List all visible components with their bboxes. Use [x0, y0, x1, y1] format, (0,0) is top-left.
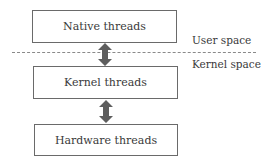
- user-space-label: User space: [192, 34, 251, 46]
- native-threads-label: Native threads: [63, 20, 146, 33]
- kernel-threads-label: Kernel threads: [64, 76, 147, 89]
- native-threads-box: Native threads: [32, 10, 177, 43]
- hardware-threads-label: Hardware threads: [55, 134, 157, 147]
- bidirectional-arrow-icon: [98, 100, 114, 123]
- kernel-threads-box: Kernel threads: [33, 66, 178, 99]
- hardware-threads-box: Hardware threads: [34, 124, 178, 156]
- kernel-space-label: Kernel space: [192, 58, 261, 70]
- user-kernel-divider: [12, 52, 256, 53]
- bidirectional-arrow-icon: [97, 43, 113, 66]
